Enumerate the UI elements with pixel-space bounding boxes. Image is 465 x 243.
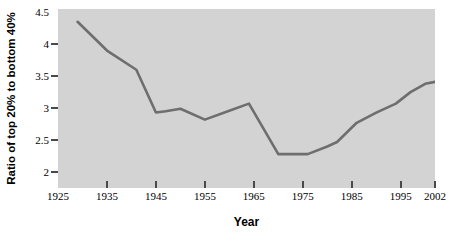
x-axis-tick-label: 1965: [243, 191, 265, 202]
data-line-series: [58, 9, 435, 188]
y-axis-tick-mark: [51, 107, 58, 109]
chart-container: Ratio of top 20% to bottom 40% 4.543.532…: [0, 0, 465, 243]
line-path-ratio: [78, 22, 435, 154]
y-axis-tick-mark: [51, 75, 58, 77]
x-axis-tick-label: 1975: [292, 191, 314, 202]
y-axis-tick-label: 3.5: [35, 71, 51, 82]
y-axis-tick-label: 2.5: [35, 135, 51, 146]
x-axis-title: Year: [58, 215, 435, 229]
y-axis-tick-label: 2: [44, 167, 52, 178]
y-axis-tick-label: 4: [44, 39, 52, 50]
x-axis-tick-label: 1945: [145, 191, 167, 202]
x-axis-tick-label: 1955: [194, 191, 216, 202]
y-axis-tick-label: 3: [44, 103, 52, 114]
y-axis-tick-mark: [51, 171, 58, 173]
x-axis-tick-label: 1935: [96, 191, 118, 202]
y-axis-tick-mark: [51, 43, 58, 45]
y-axis-tick-label: 4.5: [35, 7, 51, 18]
plot-area: [58, 9, 435, 188]
x-axis-tick-label: 1985: [341, 191, 363, 202]
y-axis-tick-mark: [51, 139, 58, 141]
x-axis-tick-label: 1995: [390, 191, 412, 202]
y-axis: 4.543.532.52: [0, 0, 58, 197]
x-axis-tick-label: 2002: [424, 191, 446, 202]
